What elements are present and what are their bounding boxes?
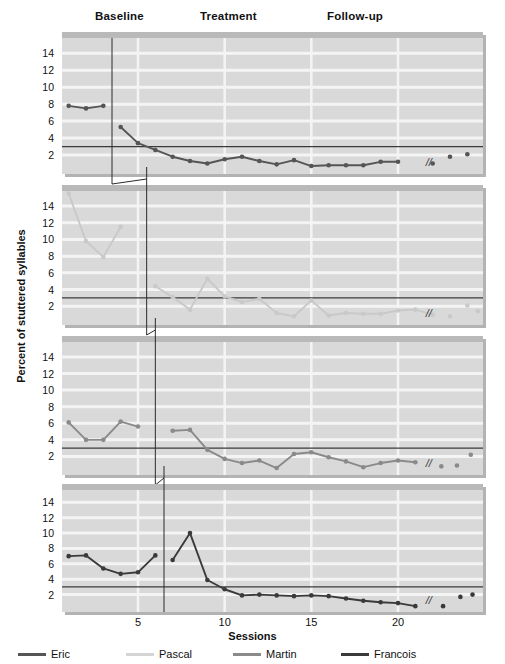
data-point (344, 596, 349, 601)
y-tick-label: 2 (32, 451, 54, 461)
axis-break-marker: // (426, 594, 432, 606)
data-point (153, 284, 158, 289)
data-point (205, 276, 210, 281)
data-point (396, 160, 401, 165)
series-line-pascal (69, 194, 121, 257)
legend-label-eric: Eric (51, 648, 70, 660)
data-point (170, 154, 175, 159)
data-point (274, 311, 279, 316)
x-tick-label: 10 (213, 617, 237, 628)
y-tick-label: 4 (32, 285, 54, 295)
data-point (66, 420, 71, 425)
y-tick-label: 2 (32, 150, 54, 160)
phase-change-connector (147, 330, 156, 335)
data-point (66, 554, 71, 559)
data-point (361, 598, 366, 603)
x-tick-label: 20 (386, 617, 410, 628)
axis-break-marker: // (426, 457, 432, 469)
data-point (309, 450, 314, 455)
data-point (222, 587, 227, 592)
data-point (469, 452, 474, 457)
panel-francois (62, 484, 483, 612)
data-point (274, 593, 279, 598)
y-tick-label: 4 (32, 574, 54, 584)
phase-label-follow-up: Follow-up (327, 10, 383, 22)
data-point (257, 296, 262, 301)
data-point (465, 152, 470, 157)
x-axis-title: Sessions (0, 630, 505, 642)
data-point (101, 255, 106, 260)
y-tick-label: 2 (32, 590, 54, 600)
data-point (326, 455, 331, 460)
data-point (101, 566, 106, 571)
y-tick-label: 6 (32, 559, 54, 569)
y-tick-label: 10 (32, 528, 54, 538)
phase-label-baseline: Baseline (95, 10, 144, 22)
data-point (326, 313, 331, 318)
data-point (136, 424, 141, 429)
legend: EricPascalMartinFrancois (0, 648, 505, 664)
data-point (378, 312, 383, 317)
data-point (153, 148, 158, 153)
data-point (448, 154, 453, 159)
x-tick-label: 5 (126, 617, 150, 628)
data-point (413, 604, 418, 609)
data-point (309, 298, 314, 303)
panel-martin (62, 336, 483, 475)
y-tick-label: 10 (32, 82, 54, 92)
panel-plot-martin (62, 336, 483, 475)
data-point (205, 447, 210, 452)
data-point (136, 570, 141, 575)
data-point (205, 578, 210, 583)
y-tick-label: 12 (32, 513, 54, 523)
data-point (361, 163, 366, 168)
data-point (344, 163, 349, 168)
y-tick-label: 12 (32, 65, 54, 75)
y-tick-label: 10 (32, 234, 54, 244)
y-tick-label: 6 (32, 116, 54, 126)
data-point (413, 307, 418, 312)
data-point (470, 592, 475, 597)
data-point (101, 104, 106, 109)
axis-break-marker: // (426, 156, 432, 168)
data-point (118, 572, 123, 577)
data-point (222, 457, 227, 462)
data-point (84, 239, 89, 244)
y-tick-label: 10 (32, 385, 54, 395)
data-point (188, 307, 193, 312)
data-point (222, 294, 227, 299)
legend-label-martin: Martin (266, 648, 297, 660)
data-point (188, 428, 193, 433)
data-point (475, 309, 480, 314)
data-point (274, 162, 279, 167)
panel-plot-pascal (62, 185, 483, 325)
y-tick-label: 6 (32, 418, 54, 428)
data-point (361, 465, 366, 470)
y-tick-label: 14 (32, 48, 54, 58)
data-point (326, 163, 331, 168)
data-point (153, 553, 158, 558)
x-tick-label: 15 (299, 617, 323, 628)
y-tick-label: 4 (32, 133, 54, 143)
data-point (101, 438, 106, 443)
data-point (205, 161, 210, 166)
data-point (396, 601, 401, 606)
y-tick-label: 8 (32, 251, 54, 261)
data-point (465, 303, 470, 308)
data-point (188, 531, 193, 536)
data-point (257, 592, 262, 597)
data-point (309, 593, 314, 598)
data-point (455, 463, 460, 468)
y-tick-label: 4 (32, 435, 54, 445)
y-tick-label: 2 (32, 301, 54, 311)
data-point (413, 460, 418, 465)
y-tick-label: 14 (32, 497, 54, 507)
data-point (66, 104, 71, 109)
data-point (361, 312, 366, 317)
panel-top-band (62, 185, 483, 191)
y-tick-label: 14 (32, 201, 54, 211)
data-point (240, 461, 245, 466)
data-point (396, 458, 401, 463)
y-tick-label: 8 (32, 99, 54, 109)
data-point (222, 157, 227, 162)
